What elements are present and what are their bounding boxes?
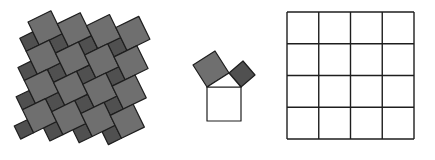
square-grid xyxy=(0,0,435,160)
grid-lines xyxy=(287,12,414,139)
